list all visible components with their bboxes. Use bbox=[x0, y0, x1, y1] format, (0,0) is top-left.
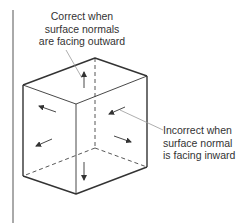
visible-edges bbox=[23, 58, 147, 194]
cube-diagram bbox=[0, 0, 244, 223]
arrow-inward-icon bbox=[109, 107, 125, 114]
arrow-left-icon bbox=[39, 106, 56, 112]
arrow-down-left-icon bbox=[36, 139, 52, 146]
arrow-right-icon bbox=[114, 136, 131, 142]
hidden-edges bbox=[23, 58, 147, 176]
leader-lines bbox=[66, 50, 163, 130]
